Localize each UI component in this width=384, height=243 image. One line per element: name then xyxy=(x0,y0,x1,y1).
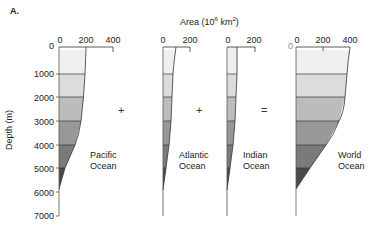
ocean-hypsometry-chart xyxy=(0,0,384,243)
world-label: WorldOcean xyxy=(338,150,365,172)
world-label-line1: World xyxy=(338,150,365,161)
indian-label-line1: Indian xyxy=(243,150,270,161)
equals-operator: = xyxy=(261,104,267,116)
atlantic-label-line1: Atlantic xyxy=(179,150,209,161)
atlantic-label-line2: Ocean xyxy=(179,161,209,172)
indian-label: IndianOcean xyxy=(243,150,270,172)
atlantic-profile xyxy=(163,47,190,216)
plus-operator-1: + xyxy=(118,104,124,116)
atlantic-label: AtlanticOcean xyxy=(179,150,209,172)
indian-profile xyxy=(227,47,255,216)
pacific-label: PacificOcean xyxy=(90,150,117,172)
pacific-label-line2: Ocean xyxy=(90,161,117,172)
plus-operator-2: + xyxy=(196,104,202,116)
indian-label-line2: Ocean xyxy=(243,161,270,172)
pacific-label-line1: Pacific xyxy=(90,150,117,161)
world-profile xyxy=(296,47,350,216)
pacific-profile xyxy=(56,47,113,216)
world-label-line2: Ocean xyxy=(338,161,365,172)
